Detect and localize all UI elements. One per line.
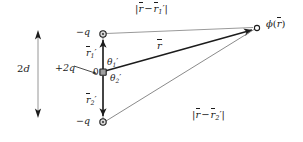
vector-overbar-icon — [86, 46, 90, 47]
vector-overbar-icon — [139, 2, 143, 3]
theta1-prime-mark: ′ — [116, 57, 118, 67]
origin-label-text: 0 — [93, 67, 99, 77]
charge-label-middle-text: +2q — [55, 62, 75, 73]
distance-line-top — [106, 28, 253, 34]
r2-prime-mark: ′ — [95, 94, 97, 105]
vector-r-arrow — [105, 30, 252, 71]
charge-label-bottom-text: −q — [76, 115, 90, 126]
dist-top-r1-symbol: r — [154, 4, 159, 14]
charge-label-bottom: −q — [76, 116, 90, 126]
separation-dimension-arrow — [35, 30, 41, 118]
vector-overbar-icon — [86, 93, 90, 94]
diagram-canvas — [0, 0, 303, 142]
dist-top-r-symbol: r — [138, 4, 143, 14]
quadrupole-diagram: 2d −q +2q −q 0 r1′ r2′ θ1′ θ2′ r |r−r1′|… — [0, 0, 303, 142]
angle-theta2-label: θ2′ — [110, 74, 121, 84]
vector-r2-prime-label: r2′ — [86, 95, 97, 106]
r-symbol: r — [157, 41, 162, 51]
origin-label: 0 — [93, 68, 99, 77]
vector-r1-prime-label: r1′ — [86, 48, 97, 59]
vector-r-label: r — [157, 41, 162, 51]
vector-overbar-icon — [196, 108, 200, 109]
charge-label-top: −q — [76, 27, 90, 37]
phi-symbol: ϕ — [266, 18, 273, 29]
abs-bar-close-icon: | — [165, 3, 168, 14]
dist-top-minus-sign: − — [144, 3, 152, 14]
r2-prime-symbol: r — [86, 95, 91, 105]
charge-marker-bottom — [100, 119, 106, 125]
abs-bar-close-icon: | — [222, 109, 225, 120]
vector-overbar-icon — [211, 108, 215, 109]
distance-label-top: |r−r1′| — [135, 4, 168, 15]
phi-argument-symbol: r — [277, 19, 282, 29]
dist-bottom-r2-symbol: r — [211, 110, 216, 120]
vector-overbar-icon — [157, 39, 161, 40]
vector-overbar-icon — [277, 17, 281, 18]
vector-overbar-icon — [154, 2, 158, 3]
charge-label-middle: +2q — [55, 63, 75, 73]
angle-theta1-label: θ1′ — [107, 58, 118, 68]
field-point-marker — [254, 25, 259, 30]
charge-label-top-text: −q — [76, 26, 90, 37]
field-point-label: ϕ(r) — [266, 19, 285, 29]
distance-line-bottom — [106, 30, 254, 122]
distance-label-bottom: |r−r2′| — [192, 110, 225, 121]
charge-marker-top — [100, 31, 106, 37]
phi-close-paren: ) — [282, 18, 286, 29]
r1-prime-symbol: r — [86, 48, 91, 58]
theta2-prime-mark: ′ — [119, 73, 121, 83]
dist-bottom-r-symbol: r — [195, 110, 200, 120]
separation-label: 2d — [17, 64, 30, 74]
dist-bottom-minus-sign: − — [201, 109, 209, 120]
charge-marker-middle — [100, 69, 106, 75]
r1-prime-mark: ′ — [95, 47, 97, 58]
separation-label-symbol: d — [23, 63, 29, 74]
